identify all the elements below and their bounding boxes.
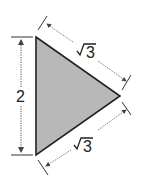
gray-triangle	[36, 37, 120, 155]
diagram-svg: 2 3 3	[0, 0, 145, 185]
upper-side-label: 3	[77, 44, 96, 61]
upper-dimension-arrow-left	[47, 24, 73, 42]
lower-extension-right	[122, 102, 131, 115]
lower-side-label: 3	[74, 138, 93, 155]
left-side-label: 2	[16, 88, 25, 105]
upper-extension-right	[122, 75, 131, 90]
upper-dimension-arrow-right	[98, 61, 126, 81]
triangle-diagram: 2 3 3	[0, 0, 145, 185]
lower-extension-bottom	[38, 160, 48, 175]
upper-extension-top	[38, 16, 47, 30]
upper-side-value: 3	[86, 44, 95, 61]
lower-dimension-arrow-right	[98, 110, 126, 130]
lower-side-value: 3	[83, 138, 92, 155]
lower-dimension-arrow-left	[46, 150, 71, 166]
